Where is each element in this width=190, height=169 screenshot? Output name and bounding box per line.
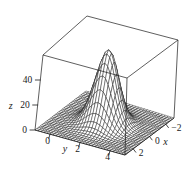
x-tick-label: 2 (139, 148, 144, 158)
x-tick-label: −2 (171, 123, 181, 133)
x-axis-tick (150, 137, 153, 140)
surface-plot-figure: 0204002420−2zyx (0, 0, 190, 169)
x-tick-label: 0 (155, 136, 160, 146)
y-tick-label: 0 (45, 136, 50, 146)
x-axis-label: x (162, 136, 168, 147)
x-axis-tick (166, 124, 169, 127)
box-left-vertical-edge (35, 55, 43, 130)
surface-mesh (35, 50, 174, 155)
z-axis-label: z (8, 100, 13, 111)
y-tick-label: 2 (75, 144, 80, 154)
z-tick-label: 20 (20, 100, 30, 110)
x-axis-tick (133, 149, 136, 152)
surface-plot-canvas: 0204002420−2zyx (0, 0, 190, 169)
z-tick-label: 40 (23, 75, 33, 85)
z-tick-label: 0 (22, 125, 27, 135)
box-right-vertical-edge (174, 40, 178, 118)
y-axis-label: y (62, 143, 68, 154)
y-tick-label: 4 (105, 152, 110, 162)
